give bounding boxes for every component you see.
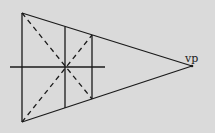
- diagonal-2: [22, 35, 92, 122]
- vanishing-point: [191, 65, 194, 68]
- bottom-convergence-line: [22, 66, 192, 122]
- diagonal-1: [22, 13, 92, 99]
- vanishing-point-label: vp: [184, 52, 198, 65]
- top-convergence-line: [22, 13, 192, 66]
- perspective-diagram: vp: [0, 0, 215, 133]
